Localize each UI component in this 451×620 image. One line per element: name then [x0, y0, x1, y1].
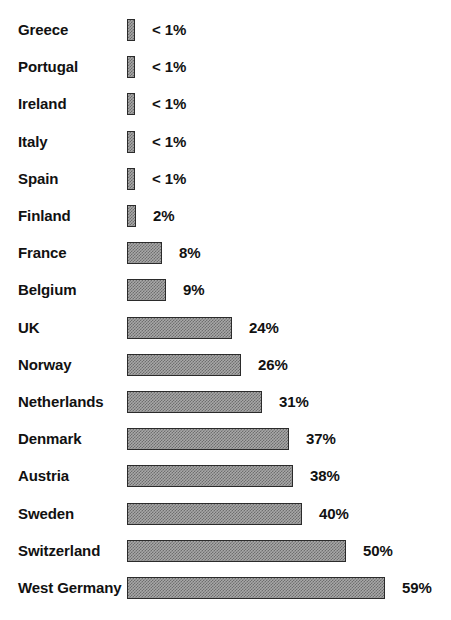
bar-container [127, 463, 293, 489]
bar-row: Spain< 1% [0, 166, 451, 192]
bar-row: Ireland< 1% [0, 91, 451, 117]
bar-row: Switzerland50% [0, 538, 451, 564]
bar [127, 354, 241, 376]
category-label: Ireland [18, 91, 66, 117]
bar-container [127, 277, 166, 303]
value-label: 8% [179, 240, 200, 266]
bar-row: Finland2% [0, 203, 451, 229]
bar-container [127, 129, 135, 155]
bar [127, 465, 293, 487]
value-label: 24% [249, 315, 279, 341]
bar-container [127, 352, 241, 378]
value-label: 9% [183, 277, 204, 303]
value-label: 59% [402, 575, 432, 601]
category-label: Austria [18, 463, 69, 489]
bar [127, 93, 135, 115]
bar [127, 56, 135, 78]
bar-container [127, 426, 289, 452]
value-label: < 1% [152, 54, 186, 80]
bar-row: France8% [0, 240, 451, 266]
bar-row: Greece< 1% [0, 17, 451, 43]
bar [127, 503, 302, 525]
value-label: < 1% [152, 166, 186, 192]
bar [127, 540, 346, 562]
value-label: 40% [319, 501, 349, 527]
bar [127, 279, 166, 301]
value-label: < 1% [152, 91, 186, 117]
value-label: 38% [310, 463, 340, 489]
category-label: Netherlands [18, 389, 104, 415]
category-label: Denmark [18, 426, 82, 452]
category-label: Spain [18, 166, 58, 192]
category-label: Norway [18, 352, 72, 378]
bar [127, 205, 136, 227]
bar-container [127, 575, 385, 601]
bar-container [127, 389, 262, 415]
bar-row: Belgium9% [0, 277, 451, 303]
bar [127, 242, 162, 264]
category-label: UK [18, 315, 39, 341]
category-label: Finland [18, 203, 71, 229]
value-label: 37% [306, 426, 336, 452]
bar-container [127, 17, 135, 43]
category-label: Belgium [18, 277, 76, 303]
bar [127, 428, 289, 450]
bar-row: Norway26% [0, 352, 451, 378]
value-label: < 1% [152, 129, 186, 155]
bar-row: Netherlands31% [0, 389, 451, 415]
bar-row: UK24% [0, 315, 451, 341]
bar-row: Italy< 1% [0, 129, 451, 155]
value-label: 2% [153, 203, 174, 229]
bar-row: West Germany59% [0, 575, 451, 601]
category-label: Italy [18, 129, 48, 155]
bar [127, 391, 262, 413]
bar-container [127, 166, 135, 192]
bar-chart: Greece< 1%Portugal< 1%Ireland< 1%Italy< … [0, 0, 451, 620]
bar-container [127, 91, 135, 117]
bar [127, 131, 135, 153]
bar [127, 19, 135, 41]
bar [127, 317, 232, 339]
category-label: Portugal [18, 54, 78, 80]
category-label: France [18, 240, 67, 266]
bar-container [127, 538, 346, 564]
bar-container [127, 54, 135, 80]
bar [127, 577, 385, 599]
value-label: < 1% [152, 17, 186, 43]
value-label: 31% [279, 389, 309, 415]
bar-container [127, 240, 162, 266]
bar-row: Austria38% [0, 463, 451, 489]
bar [127, 168, 135, 190]
category-label: Greece [18, 17, 68, 43]
bar-container [127, 203, 136, 229]
bar-row: Portugal< 1% [0, 54, 451, 80]
clipped-caption [18, 609, 438, 620]
value-label: 26% [258, 352, 288, 378]
bar-container [127, 501, 302, 527]
bar-container [127, 315, 232, 341]
value-label: 50% [363, 538, 393, 564]
category-label: Sweden [18, 501, 74, 527]
bar-row: Denmark37% [0, 426, 451, 452]
category-label: West Germany [18, 575, 122, 601]
bar-row: Sweden40% [0, 501, 451, 527]
category-label: Switzerland [18, 538, 100, 564]
